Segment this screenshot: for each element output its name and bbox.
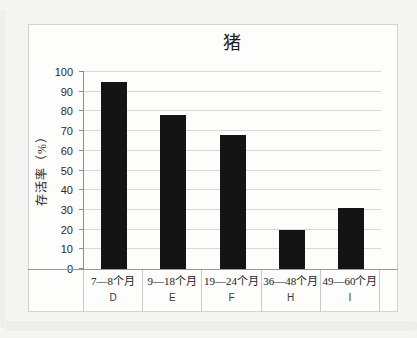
scan-artifact-left: [0, 10, 5, 328]
x-group-label: F: [202, 293, 260, 303]
scanned-chart-page: 猪 存活率（%） 0102030405060708090100 7—8个月D9—…: [0, 0, 417, 338]
y-tick-label-100: 100: [55, 67, 73, 78]
gridline-70: [84, 130, 381, 131]
bar-F: [220, 135, 246, 269]
x-category-label: 36—48个月: [262, 275, 320, 288]
y-axis-tick-labels: 0102030405060708090100: [42, 72, 78, 269]
gridline-100: [84, 71, 381, 72]
y-tick-label-20: 20: [61, 224, 73, 235]
y-tick-20: [79, 229, 84, 230]
y-tick-label-50: 50: [61, 165, 73, 176]
x-axis-band: 7—8个月D9—18个月E19—24个月F36—48个月H49—60个月I: [28, 269, 398, 312]
y-tick-50: [79, 170, 84, 171]
y-tick-label-40: 40: [61, 185, 73, 196]
x-group-label: H: [262, 293, 320, 303]
x-category-label: 19—24个月: [202, 275, 260, 288]
bar-D: [101, 82, 127, 269]
x-category-label: 9—18个月: [143, 275, 201, 288]
y-tick-label-80: 80: [61, 106, 73, 117]
x-cell-E: 9—18个月E: [142, 270, 201, 312]
y-tick-100: [79, 71, 84, 72]
x-category-label: 7—8个月: [84, 275, 142, 288]
y-tick-label-30: 30: [61, 204, 73, 215]
x-group-label: D: [84, 293, 142, 303]
y-tick-30: [79, 209, 84, 210]
x-group-label: E: [143, 293, 201, 303]
y-tick-80: [79, 110, 84, 111]
bar-I: [338, 208, 364, 269]
gridline-80: [84, 110, 381, 111]
y-tick-label-70: 70: [61, 126, 73, 137]
y-tick-60: [79, 150, 84, 151]
x-group-label: I: [321, 293, 379, 303]
x-cell-H: 36—48个月H: [261, 270, 320, 312]
scan-artifact-bottom: [6, 321, 417, 331]
x-cell-I: 49—60个月I: [320, 270, 380, 312]
y-tick-90: [79, 91, 84, 92]
x-cell-F: 19—24个月F: [201, 270, 260, 312]
y-tick-70: [79, 130, 84, 131]
bar-H: [279, 230, 305, 269]
gridline-90: [84, 91, 381, 92]
chart-title: 猪: [83, 28, 380, 54]
plot-area: [83, 72, 381, 270]
x-axis-cells: 7—8个月D9—18个月E19—24个月F36—48个月H49—60个月I: [83, 270, 380, 312]
x-category-label: 49—60个月: [321, 275, 379, 288]
y-tick-label-10: 10: [61, 244, 73, 255]
y-tick-40: [79, 189, 84, 190]
y-tick-label-60: 60: [61, 145, 73, 156]
y-tick-label-90: 90: [61, 86, 73, 97]
y-tick-10: [79, 248, 84, 249]
bar-E: [160, 115, 186, 269]
x-cell-D: 7—8个月D: [83, 270, 142, 312]
